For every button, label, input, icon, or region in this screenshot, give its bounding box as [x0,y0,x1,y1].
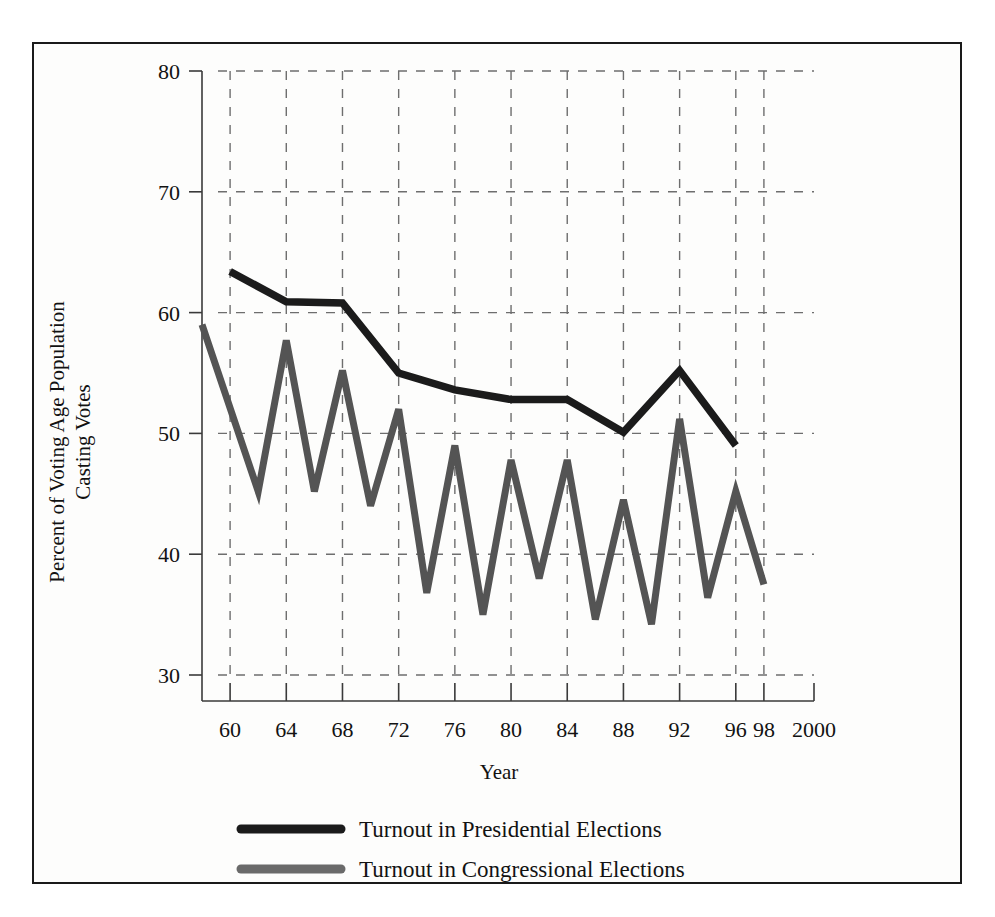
x-tick-label: 76 [444,717,466,742]
chart-plot-area: 304050607080 60646872768084889296982000 … [34,44,964,886]
tick-marks [189,71,814,701]
x-tick-label: 64 [275,717,297,742]
x-tick-label: 80 [500,717,522,742]
line-chart: 304050607080 60646872768084889296982000 … [34,44,964,886]
x-tick-label: 68 [331,717,353,742]
series-line-presidential [230,272,736,446]
x-axis-title: Year [480,760,519,784]
y-axis-title-line2: Casting Votes [71,384,95,499]
x-tick-label: 60 [219,717,241,742]
y-tick-label: 40 [158,542,180,567]
x-tick-label: 88 [612,717,634,742]
y-tick-label: 50 [158,421,180,446]
chart-legend: Turnout in Presidential Elections Turnou… [241,817,685,882]
y-tick-label: 60 [158,301,180,326]
legend-label-presidential: Turnout in Presidential Elections [359,817,662,842]
x-tick-label: 72 [388,717,410,742]
legend-label-congressional: Turnout in Congressional Elections [359,857,685,882]
x-tick-label: 92 [669,717,691,742]
y-tick-label: 30 [158,663,180,688]
y-axis-title-line1: Percent of Voting Age Population [45,301,69,583]
x-tick-label: 98 [753,717,775,742]
chart-figure-frame: 304050607080 60646872768084889296982000 … [32,42,962,884]
x-axis-tick-labels: 60646872768084889296982000 [219,717,836,742]
y-tick-label: 70 [158,180,180,205]
x-tick-label: 2000 [792,717,836,742]
gridlines [218,71,814,675]
x-tick-label: 84 [556,717,578,742]
y-axis-tick-labels: 304050607080 [158,59,180,688]
y-tick-label: 80 [158,59,180,84]
x-tick-label: 96 [725,717,747,742]
